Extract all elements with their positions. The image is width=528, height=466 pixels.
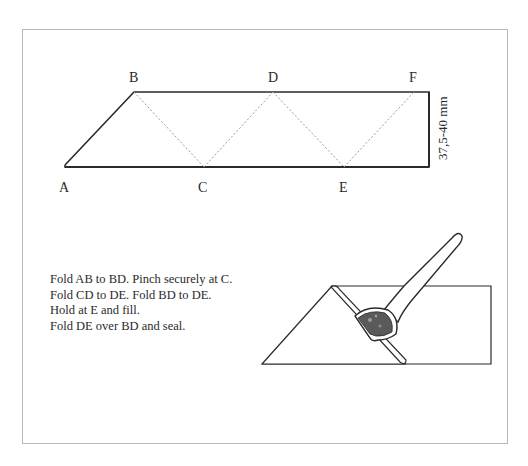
fold-instructions: Fold AB to BD. Pinch securely at C. Fold…: [50, 272, 232, 334]
fold-lines: [134, 92, 414, 167]
pastry-strip: [65, 92, 429, 167]
instruction-line: Fold AB to BD. Pinch securely at C.: [50, 272, 232, 288]
dimension-label: 37,5-40 mm: [435, 96, 451, 160]
point-label-f: F: [409, 70, 417, 86]
point-label-e: E: [339, 180, 348, 196]
point-label-c: C: [198, 180, 207, 196]
filling-illustration: [262, 233, 491, 364]
instruction-line: Fold DE over BD and seal.: [50, 319, 232, 335]
instruction-line: Fold CD to DE. Fold BD to DE.: [50, 288, 232, 304]
samosa-fold-diagram: [0, 0, 528, 466]
point-label-b: B: [129, 70, 138, 86]
point-label-a: A: [59, 180, 69, 196]
point-label-d: D: [268, 70, 278, 86]
instruction-line: Hold at E and fill.: [50, 303, 232, 319]
